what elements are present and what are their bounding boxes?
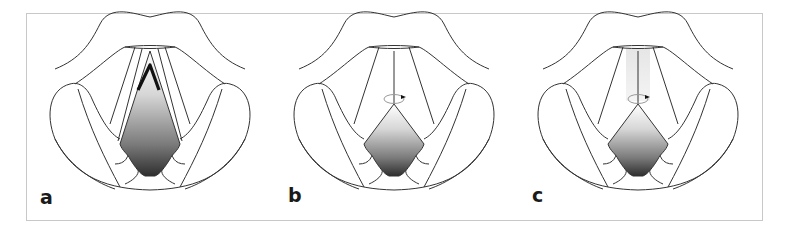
panel-label-b: b bbox=[288, 186, 302, 205]
panel-c: c bbox=[520, 0, 780, 230]
panel-label-c: c bbox=[532, 186, 543, 205]
larynx-diagram-c bbox=[520, 0, 788, 230]
panel-b: b bbox=[260, 0, 520, 230]
panel-label-a: a bbox=[40, 188, 53, 207]
panel-a: a bbox=[0, 0, 260, 230]
